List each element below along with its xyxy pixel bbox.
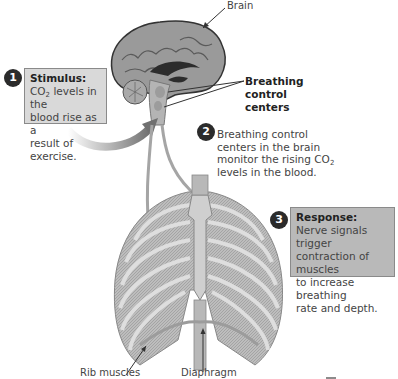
- stimulus-box: Stimulus: CO2 levels in the blood rise a…: [24, 68, 107, 124]
- step-3-badge: 3: [270, 211, 288, 229]
- label-rib-muscles: Rib muscles: [80, 367, 140, 379]
- diagram-artwork: [0, 0, 398, 379]
- label-diaphragm: Diaphragm: [181, 367, 237, 379]
- step-2-description: Breathing control centers in the brain m…: [217, 128, 334, 178]
- stimulus-line-1: CO2 levels in the: [30, 85, 101, 111]
- stimulus-line-3: result of exercise.: [30, 137, 101, 163]
- label-brain: Brain: [227, 0, 253, 12]
- stimulus-line-2: blood rise as a: [30, 111, 101, 137]
- label-breathing-control-centers: Breathing control centers: [245, 75, 303, 114]
- rib-cage-illustration: [114, 175, 282, 370]
- step-1-badge: 1: [4, 69, 22, 87]
- response-box: Response: Nerve signals trigger contract…: [290, 207, 395, 277]
- stimulus-title: Stimulus:: [30, 72, 101, 85]
- brain-illustration: [112, 21, 226, 125]
- step-2-badge: 2: [197, 123, 215, 141]
- response-title: Response:: [296, 211, 389, 224]
